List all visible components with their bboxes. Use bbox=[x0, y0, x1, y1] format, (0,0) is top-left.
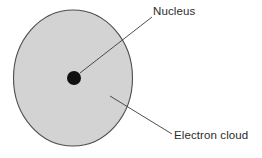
electron-cloud-label: Electron cloud bbox=[174, 129, 248, 142]
nucleus-label: Nucleus bbox=[153, 5, 195, 18]
atom-diagram: Nucleus Electron cloud bbox=[0, 0, 262, 158]
nucleus-shape bbox=[67, 71, 81, 85]
